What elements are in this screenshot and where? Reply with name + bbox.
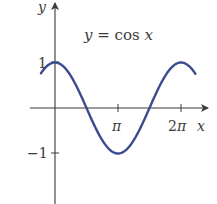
y-axis-label: y: [37, 0, 47, 15]
cosine-chart: y y = cos x 1 −1 π 2π x: [0, 0, 217, 204]
x-tick-label-2pi: 2π: [168, 118, 187, 134]
x-tick-label-pi: π: [111, 118, 122, 134]
y-tick-label-1: 1: [38, 55, 47, 71]
chart-title: y = cos x: [83, 26, 154, 44]
y-tick-label-neg1: −1: [27, 145, 48, 161]
x-axis-label: x: [197, 118, 205, 134]
